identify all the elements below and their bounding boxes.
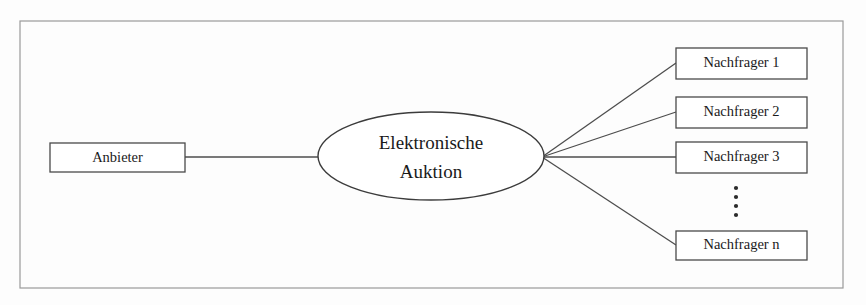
ellipsis-dot (734, 195, 738, 199)
nachfrager-n-label: Nachfrager n (703, 236, 780, 252)
diagram-canvas: Anbieter Elektronische Auktion Nachfrage… (0, 0, 866, 305)
nachfrager-1-label: Nachfrager 1 (703, 54, 779, 70)
edge-auction-to-demander-2 (542, 112, 676, 157)
ellipsis-dot (734, 186, 738, 190)
node-nachfrager-n[interactable]: Nachfrager n (676, 231, 807, 260)
edge-auction-to-demander-1 (542, 63, 676, 157)
node-nachfrager-1[interactable]: Nachfrager 1 (676, 48, 807, 79)
auktion-ellipse[interactable] (318, 112, 544, 200)
node-nachfrager-3[interactable]: Nachfrager 3 (676, 142, 807, 173)
edge-group-auction-to-demanders (542, 63, 676, 245)
nachfrager-3-label: Nachfrager 3 (703, 148, 779, 164)
nachfrager-2-label: Nachfrager 2 (703, 103, 779, 119)
node-anbieter[interactable]: Anbieter (50, 143, 185, 172)
ellipsis-dot (734, 213, 738, 217)
auktion-label-line1: Elektronische (379, 132, 483, 153)
anbieter-label: Anbieter (92, 149, 143, 165)
node-nachfrager-2[interactable]: Nachfrager 2 (676, 97, 807, 128)
node-elektronische-auktion[interactable]: Elektronische Auktion (318, 112, 544, 200)
edge-auction-to-demander-n (542, 157, 676, 245)
auktion-label-line2: Auktion (400, 161, 463, 182)
ellipsis-dot (734, 204, 738, 208)
vertical-ellipsis-icon (734, 186, 738, 217)
auction-diagram: Anbieter Elektronische Auktion Nachfrage… (0, 0, 866, 305)
